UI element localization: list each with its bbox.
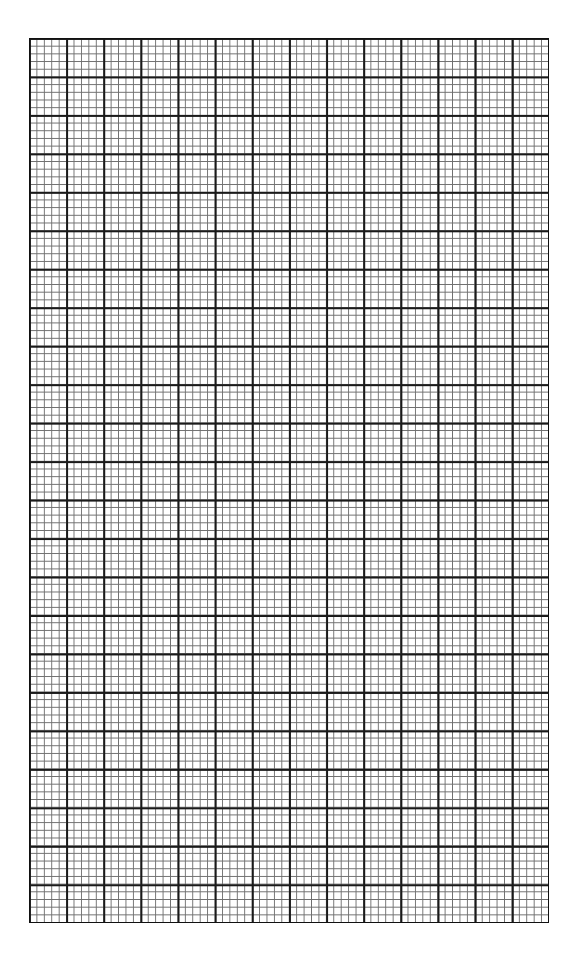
graph-paper-grid [29,38,549,923]
